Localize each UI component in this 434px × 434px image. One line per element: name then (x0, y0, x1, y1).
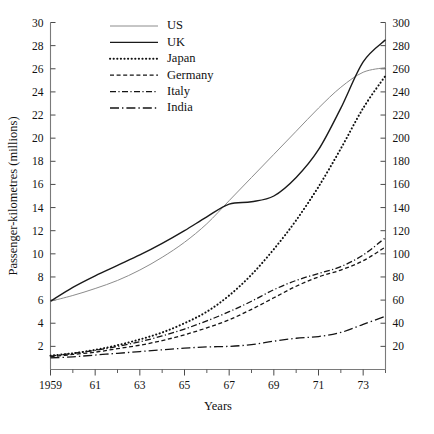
y-axis-left-tick-label: 2 (38, 340, 44, 352)
y-axis-left-tick-label: 16 (32, 178, 44, 190)
y-axis-right-tick-label: 280 (393, 40, 411, 52)
x-axis-tick-label: 71 (313, 379, 325, 391)
legend-layer: USUKJapanGermanyItalyIndia (110, 18, 214, 114)
y-axis-left-tick-label: 18 (32, 155, 44, 167)
chart-container: 2468101214161820222426283020406080100120… (0, 0, 434, 434)
y-axis-left-tick-label: 28 (32, 40, 44, 52)
y-axis-right-tick-label: 260 (393, 63, 411, 75)
y-axis-right-tick-label: 300 (393, 17, 411, 29)
y-axis-right-tick-label: 220 (393, 109, 411, 121)
x-axis-tick-label: 1959 (39, 379, 62, 391)
x-axis-tick-label: 63 (134, 379, 146, 391)
x-axis-tick-label: 67 (223, 379, 235, 391)
y-axis-right-tick-label: 120 (393, 225, 411, 237)
y-axis-left-tick-label: 20 (32, 132, 44, 144)
y-axis-right-tick-label: 60 (393, 294, 405, 306)
y-axis-left-tick-label: 6 (38, 294, 44, 306)
legend-label-germany: Germany (167, 68, 214, 82)
y-axis-right-tick-label: 100 (393, 248, 411, 260)
legend-label-uk: UK (167, 35, 185, 49)
y-axis-left-tick-label: 4 (38, 317, 44, 329)
y-axis-right-tick-label: 140 (393, 202, 411, 214)
legend-label-us: US (167, 18, 183, 32)
series-line-us (51, 68, 386, 302)
y-axis-left-tick-label: 14 (32, 202, 44, 214)
y-axis-right-tick-label: 180 (393, 155, 411, 167)
series-line-italy (51, 238, 386, 357)
y-axis-left-tick-label: 24 (32, 86, 44, 98)
x-axis-tick-label: 61 (89, 379, 101, 391)
y-axis-right-tick-label: 40 (393, 317, 405, 329)
series-line-germany (51, 247, 386, 357)
y-axis-left-tick-label: 30 (32, 17, 44, 29)
y-axis-right-tick-label: 200 (393, 132, 411, 144)
y-axis-right-tick-label: 80 (393, 271, 405, 283)
y-axis-left-tick-label: 22 (32, 109, 44, 121)
x-axis-tick-label: 65 (179, 379, 191, 391)
y-axis-left-tick-label: 12 (32, 225, 44, 237)
x-axis-tick-label: 73 (357, 379, 369, 391)
series-line-uk (51, 40, 386, 301)
x-axis-tick-label: 69 (268, 379, 280, 391)
series-layer (51, 40, 386, 358)
x-axis-title: Years (204, 399, 232, 413)
line-chart: 2468101214161820222426283020406080100120… (0, 0, 434, 434)
y-axis-right-tick-label: 20 (393, 340, 405, 352)
legend-label-india: India (167, 100, 193, 114)
y-axis-right-tick-label: 240 (393, 86, 411, 98)
legend-label-italy: Italy (167, 84, 191, 98)
y-axis-right-tick-label: 160 (393, 178, 411, 190)
y-axis-title: Passenger-kilometres (millions) (6, 116, 20, 275)
y-axis-left-tick-label: 26 (32, 63, 44, 75)
legend-label-japan: Japan (167, 51, 196, 65)
y-axis-left-tick-label: 10 (32, 248, 44, 260)
series-line-india (51, 316, 386, 358)
y-axis-left-tick-label: 8 (38, 271, 44, 283)
axes-layer: 2468101214161820222426283020406080100120… (32, 17, 410, 391)
